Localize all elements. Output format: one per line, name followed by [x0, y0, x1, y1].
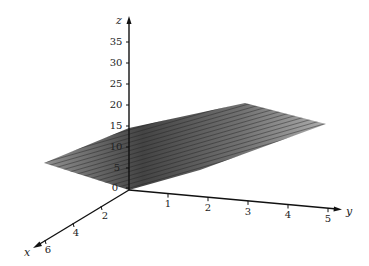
- y-tick-1: 1: [165, 198, 171, 209]
- z-axis-label: z: [115, 14, 122, 27]
- z-tick-0: 0: [112, 182, 118, 193]
- z-tick-35: 35: [110, 36, 123, 47]
- z-tick-20: 20: [110, 99, 123, 110]
- x-tick-6: 6: [45, 244, 51, 255]
- y-axis-label: y: [345, 205, 353, 218]
- x-axis-label: x: [24, 246, 31, 259]
- plot-canvas: z 0 5 10 15 20 25 30 35 y 1 2 3 4 5: [0, 0, 369, 266]
- z-tick-5: 5: [114, 162, 120, 173]
- z-tick-25: 25: [110, 78, 123, 89]
- z-tick-10: 10: [110, 141, 123, 152]
- y-tick-2: 2: [205, 202, 211, 213]
- x-tick-4: 4: [73, 227, 79, 238]
- y-tick-3: 3: [245, 206, 251, 217]
- z-tick-30: 30: [110, 57, 123, 68]
- y-axis: y 1 2 3 4 5: [129, 190, 353, 224]
- x-tick-2: 2: [102, 210, 108, 221]
- x-axis: x 2 4 6: [24, 190, 129, 259]
- y-tick-4: 4: [285, 209, 291, 220]
- z-tick-15: 15: [110, 120, 123, 131]
- y-tick-5: 5: [325, 213, 331, 224]
- surface-plane: [44, 103, 326, 190]
